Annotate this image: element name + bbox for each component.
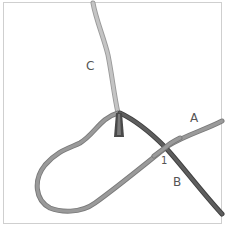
strand-a — [37, 113, 222, 211]
label-step-1: 1 — [161, 156, 167, 166]
label-a: A — [190, 112, 198, 124]
label-b: B — [173, 176, 181, 188]
label-c: C — [86, 60, 94, 72]
